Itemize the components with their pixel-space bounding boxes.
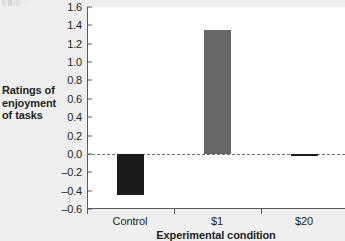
y-axis-tick-label: 1.4 — [56, 19, 82, 31]
x-axis-tick-label: $20 — [295, 215, 313, 227]
y-axis-tick-label: –0.2 — [56, 166, 82, 178]
x-axis-tick-label: Control — [113, 215, 148, 227]
x-axis-tick-label: $1 — [211, 215, 223, 227]
y-axis-tick-label: 0.0 — [56, 148, 82, 160]
x-axis-tick-mark — [174, 209, 175, 214]
bar-control — [117, 154, 144, 195]
y-axis-tick-mark — [87, 190, 92, 191]
y-axis-tick-mark — [87, 117, 92, 118]
x-axis-tick-mark — [87, 209, 88, 214]
y-axis-tick-mark — [87, 7, 92, 8]
y-axis-tick-label: 0.8 — [56, 74, 82, 86]
y-axis-tick-mark — [87, 172, 92, 173]
y-axis-tick-mark — [87, 25, 92, 26]
y-axis-tick-label: –0.4 — [56, 185, 82, 197]
y-axis-tick-mark — [87, 43, 92, 44]
bar-1 — [204, 30, 231, 154]
y-axis-tick-label: –0.6 — [56, 203, 82, 215]
y-axis-tick-label: 0.6 — [56, 93, 82, 105]
y-axis-tick-label: 1.0 — [56, 56, 82, 68]
y-axis-tick-label: 0.4 — [56, 111, 82, 123]
y-axis-tick-mark — [87, 62, 92, 63]
y-axis-tick-labels: 1.61.41.21.00.80.60.40.20.0–0.2–0.4–0.6 — [54, 0, 82, 241]
x-axis-title: Experimental condition — [87, 229, 345, 241]
bar-20 — [291, 154, 318, 156]
bar-chart-figure: Ratings of enjoyment of tasks 1.61.41.21… — [0, 0, 345, 241]
y-axis-tick-mark — [87, 135, 92, 136]
y-axis-tick-mark — [87, 80, 92, 81]
x-axis-tick-mark — [261, 209, 262, 214]
y-axis-tick-label: 0.2 — [56, 130, 82, 142]
y-axis-tick-mark — [87, 98, 92, 99]
figure-caption-artifact — [2, 0, 28, 6]
y-axis-tick-label: 1.6 — [56, 1, 82, 13]
y-axis-tick-label: 1.2 — [56, 38, 82, 50]
